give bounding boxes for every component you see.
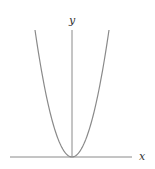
x-axis-label: x bbox=[139, 150, 146, 163]
parabola-chart: y x bbox=[0, 0, 155, 169]
y-axis-label: y bbox=[68, 14, 76, 27]
